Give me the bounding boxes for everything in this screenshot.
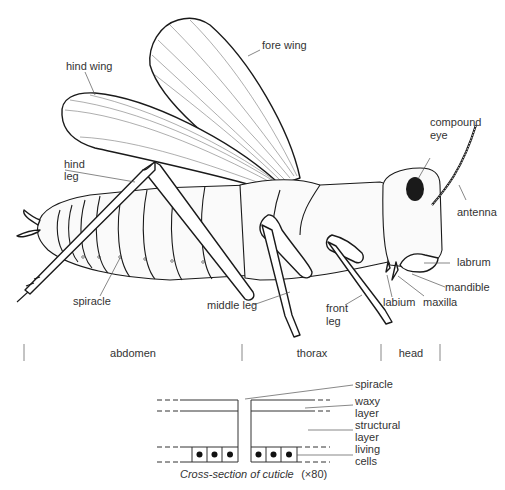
label-compound-eye-1: compound (430, 116, 481, 128)
label-labrum: labrum (457, 256, 491, 268)
label-maxilla: maxilla (423, 296, 458, 308)
cuticle-label-living-2: cells (355, 455, 378, 467)
mandible-leader (412, 274, 445, 287)
label-spiracle: spiracle (73, 295, 111, 307)
caption-main: Cross-section of cuticle (180, 468, 294, 480)
cuticle-label-living-1: living (355, 443, 380, 455)
cuticle-label-waxy-2: layer (355, 407, 379, 419)
caption-scale: (×80) (301, 468, 327, 480)
labium-leader (387, 275, 392, 297)
label-front-leg-1: front (326, 302, 348, 314)
head-body (383, 158, 442, 280)
maxilla-leader (398, 276, 424, 296)
label-hind-wing: hind wing (66, 60, 112, 72)
label-front-leg-2: leg (326, 315, 341, 327)
grasshopper-diagram: fore wing hind wing hind leg compound ey… (0, 0, 505, 490)
cuticle-label-structural-1: structural (355, 419, 400, 431)
cuticle-label-waxy-1: waxy (354, 395, 381, 407)
label-antenna: antenna (457, 206, 498, 218)
label-compound-eye-2: eye (430, 129, 448, 141)
label-fore-wing: fore wing (262, 39, 307, 51)
label-hind-leg-1: hind (64, 158, 85, 170)
label-hind-leg-2: leg (64, 170, 79, 182)
cuticle-label-spiracle: spiracle (355, 378, 393, 390)
cuticle-cross-section: spiracle waxy layer structural layer liv… (157, 378, 400, 481)
label-middle-leg: middle leg (207, 299, 257, 311)
compound-eye (406, 177, 424, 201)
region-abdomen: abdomen (110, 347, 156, 359)
abdomen-body (17, 185, 255, 296)
cuticle-caption: Cross-section of cuticle (×80) (180, 464, 327, 481)
label-mandible: mandible (445, 281, 490, 293)
region-head: head (399, 347, 423, 359)
region-thorax: thorax (297, 347, 328, 359)
label-labium: labium (383, 296, 415, 308)
cuticle-label-structural-2: layer (355, 431, 379, 443)
region-scale: abdomen thorax head (24, 344, 440, 361)
